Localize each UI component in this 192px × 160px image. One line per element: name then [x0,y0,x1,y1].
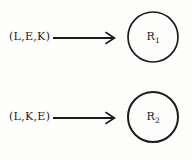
flow-row-2: (L,K,E) R2 [0,80,192,160]
node-label-r1-base: R [146,30,154,43]
node-label-r2-subscript: 2 [155,116,160,125]
node-label-r2-base: R [146,110,154,123]
node-label-r1-subscript: 1 [155,36,160,45]
diagram-canvas: (L,E,K) R1 (L,K,E) R2 [0,0,192,160]
node-label-r1: R1 [128,30,178,44]
node-label-r2: R2 [128,110,178,124]
flow-row-1: (L,E,K) R1 [0,0,192,80]
